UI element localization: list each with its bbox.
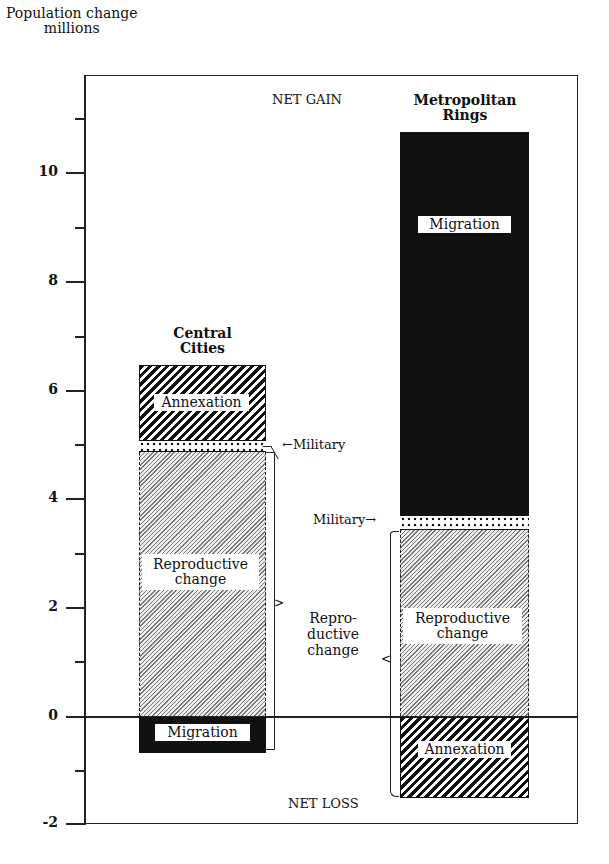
central-repro-line2: change [144, 572, 257, 587]
tick-7 [75, 336, 85, 338]
tick-11 [75, 118, 85, 120]
metro-title-line1: Metropolitan [395, 93, 535, 108]
metro-military-segment [400, 515, 529, 530]
metro-reproductive-brace [390, 531, 399, 797]
tick-m2 [66, 823, 85, 825]
y-axis [84, 75, 86, 825]
tick-label-2: 2 [18, 598, 58, 614]
tick-6 [66, 390, 85, 392]
central-migration-label: Migration [155, 724, 250, 741]
metro-title-line2: Rings [395, 108, 535, 123]
arrow-right-icon: → [365, 512, 376, 527]
central-title-line1: Central [139, 326, 266, 341]
side-repro-line1: Repro- [298, 610, 368, 626]
central-reproductive-segment: Reproductive change [139, 452, 266, 716]
metro-reproductive-label: Reproductive change [403, 608, 522, 644]
tick-2 [66, 607, 85, 609]
central-migration-segment: Migration [139, 717, 266, 753]
tick-1 [75, 661, 85, 663]
tick-label-0: 0 [18, 707, 58, 723]
metro-reproductive-segment: Reproductive change [400, 530, 529, 716]
central-military-segment [139, 440, 266, 452]
net-gain-label: NET GAIN [272, 92, 342, 107]
metro-military-callout: Military→ [313, 512, 376, 527]
metro-annexation-segment: Annexation [400, 717, 529, 798]
y-axis-title-line2: millions [6, 21, 138, 36]
y-axis-title-line1: Population change [6, 6, 138, 21]
tick-m1 [75, 770, 85, 772]
tick-10 [66, 172, 85, 174]
metro-rings-title: Metropolitan Rings [395, 93, 535, 123]
y-axis-title: Population change millions [6, 6, 138, 36]
central-cities-title: Central Cities [139, 326, 266, 356]
tick-9 [75, 227, 85, 229]
side-repro-line2: ductive [298, 626, 368, 642]
central-military-text: Military [293, 437, 345, 452]
central-annexation-segment: Annexation [139, 365, 266, 441]
arrow-left-icon: ← [282, 437, 293, 452]
central-annexation-label: Annexation [154, 394, 249, 411]
central-military-callout: ←Military [282, 437, 345, 452]
metro-repro-line2: change [405, 626, 520, 641]
central-brace-point: > [274, 596, 284, 610]
tick-5 [75, 444, 85, 446]
tick-label-4: 4 [18, 489, 58, 505]
metro-brace-point: < [381, 652, 391, 666]
tick-label-8: 8 [18, 272, 58, 288]
tick-label-m2: -2 [18, 814, 58, 830]
metro-migration-segment: Migration [400, 132, 529, 515]
net-loss-label: NET LOSS [288, 796, 359, 811]
tick-4 [66, 498, 85, 500]
metro-migration-label: Migration [418, 216, 511, 233]
side-repro-line3: change [298, 642, 368, 658]
central-title-line2: Cities [139, 341, 266, 356]
metro-annexation-label: Annexation [418, 741, 511, 758]
side-reproductive-label: Repro- ductive change [298, 610, 368, 658]
tick-8 [66, 281, 85, 283]
tick-3 [75, 553, 85, 555]
metro-military-text: Military [313, 512, 365, 527]
central-repro-line1: Reproductive [144, 557, 257, 572]
central-reproductive-label: Reproductive change [142, 554, 259, 590]
tick-label-6: 6 [18, 381, 58, 397]
metro-repro-line1: Reproductive [405, 611, 520, 626]
tick-label-10: 10 [18, 163, 58, 179]
